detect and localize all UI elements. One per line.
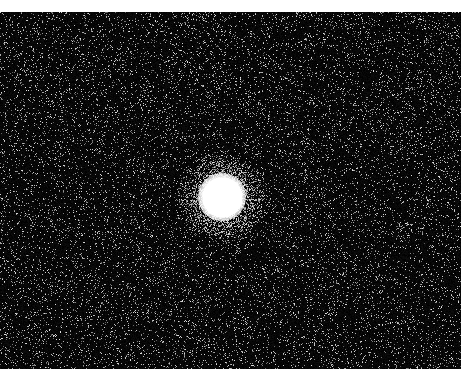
star-field-image	[0, 12, 461, 369]
noise-background	[0, 12, 461, 369]
